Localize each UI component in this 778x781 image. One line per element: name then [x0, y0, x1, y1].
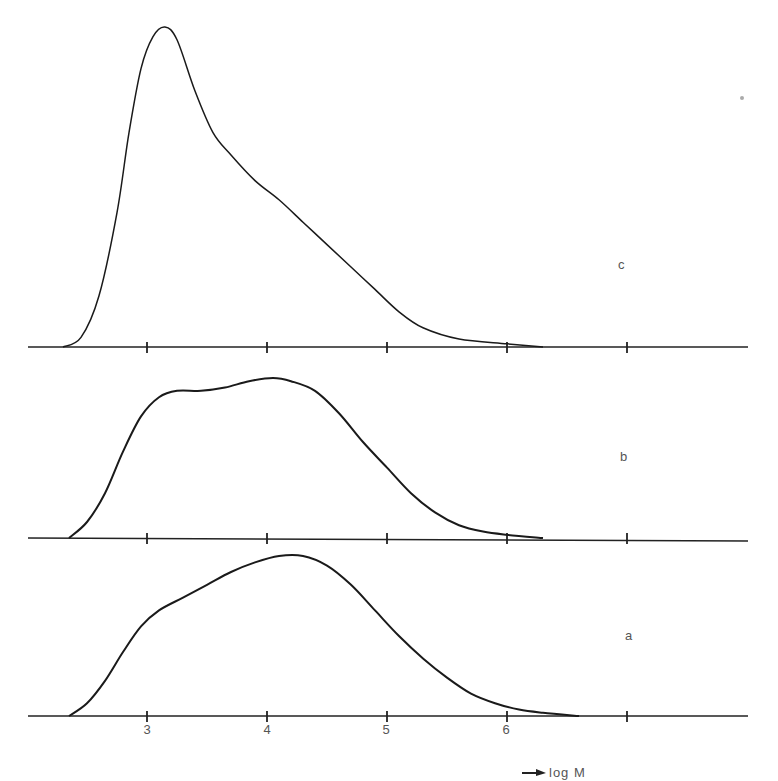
distribution-curve-b [69, 378, 543, 538]
distribution-curve-a [69, 555, 579, 716]
panel-label-c: c [618, 257, 625, 272]
axes-group [28, 342, 748, 722]
panel-label-a: a [625, 628, 632, 643]
panel-label-b: b [620, 449, 627, 464]
plot-area [0, 0, 778, 781]
x-axis-title: log M [549, 765, 586, 780]
figure: c b a 3 4 5 6 log M [0, 0, 778, 781]
distribution-curve-c [63, 27, 543, 347]
x-tick-label-4: 4 [263, 722, 270, 737]
scan-speck [740, 96, 744, 100]
x-axis-line-b [28, 538, 748, 541]
x-tick-label-5: 5 [382, 722, 389, 737]
x-tick-label-6: 6 [502, 722, 509, 737]
x-tick-label-3: 3 [143, 722, 150, 737]
right-arrow-icon [522, 769, 546, 776]
curves-group [63, 27, 579, 716]
